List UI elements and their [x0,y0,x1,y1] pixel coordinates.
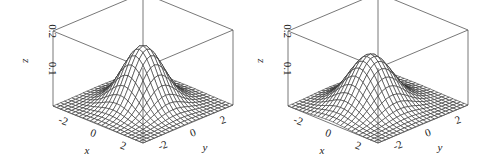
y-tick-label: -2 [156,138,169,152]
x-axis-label: x [84,144,90,156]
x-tick-label: 2 [119,138,128,151]
z-axis-label: z [256,58,268,64]
x-tick-label: -2 [292,113,305,127]
x-tick-label: 2 [354,138,363,151]
y-tick-label: 0 [188,125,198,138]
y-axis-label: y [437,141,443,153]
z-tick-label: 0.1 [282,62,294,76]
y-tick-label: -2 [391,138,404,152]
z-axis-label: z [21,58,33,64]
z-tick-label: 0.2 [282,24,294,38]
surface-plot-right: 0.10.2z-202x-202y [235,0,483,159]
y-tick-label: 2 [453,113,462,126]
surface-plot-left: 0.10.2z-202x-202y [0,0,248,159]
z-tick-label: 0.2 [47,24,59,38]
y-tick-label: 2 [218,113,227,126]
x-axis-label: x [319,144,325,156]
figure: 0.10.2z-202x-202y 0.10.2z-202x-202y [0,0,495,159]
y-tick-label: 0 [423,125,433,138]
x-tick-label: -2 [57,113,70,127]
z-tick-label: 0.1 [47,62,59,76]
x-tick-label: 0 [324,126,334,139]
x-tick-label: 0 [89,126,99,139]
y-axis-label: y [202,141,208,153]
